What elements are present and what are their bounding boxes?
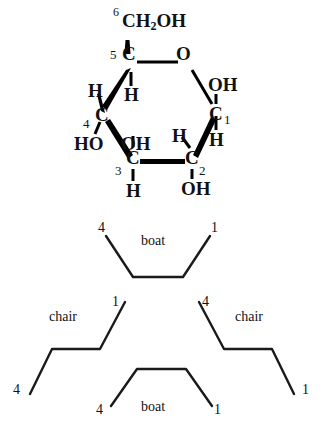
- boat-bottom-locant-left: 4: [96, 403, 103, 417]
- chair-right-label: chair: [235, 310, 263, 324]
- boat-top-locant-right: 1: [211, 221, 218, 235]
- atom-ring-oxygen: O: [176, 44, 191, 63]
- atom-c5: C: [122, 44, 136, 63]
- atom-c2: C: [185, 148, 199, 167]
- atom-oh-on-c1: OH: [208, 75, 238, 94]
- locant-4: 4: [83, 117, 90, 130]
- locant-5: 5: [110, 48, 117, 61]
- chair-right-locant-right: 1: [302, 383, 309, 397]
- chair-left-guide: [30, 327, 122, 394]
- locant-6: 6: [113, 6, 119, 18]
- boat-bottom-locant-right: 1: [214, 403, 221, 417]
- boat-top-label: boat: [141, 234, 165, 248]
- chair-left-skeleton: [30, 302, 125, 394]
- atom-h-on-c1: H: [209, 130, 224, 149]
- chair-left-locant-right: 1: [112, 295, 119, 309]
- locant-3: 3: [115, 164, 122, 177]
- atom-c4: C: [95, 105, 109, 124]
- bond-c3-c2: [140, 159, 185, 164]
- chair-left-locant-left: 4: [13, 383, 20, 397]
- atom-c1: C: [209, 104, 223, 123]
- chair-right-locant-left: 4: [202, 295, 209, 309]
- atom-ho-on-c4: HO: [74, 134, 104, 153]
- boat-bottom-label: boat: [141, 400, 165, 414]
- chemistry-figure: 6 CH2OH 5 C O H H 4 C HO OH C 3 H H C 2 …: [0, 0, 323, 429]
- chair-left-label: chair: [49, 310, 77, 324]
- locant-2: 2: [199, 164, 206, 177]
- atom-h-on-c4: H: [88, 81, 103, 100]
- locant-1: 1: [224, 113, 231, 126]
- atom-c3: C: [126, 148, 140, 167]
- atom-c6-ch2oh: CH2OH: [122, 11, 186, 32]
- atom-h-on-c5: H: [124, 85, 139, 104]
- atom-oh-on-c2: OH: [181, 179, 211, 198]
- boat-top-locant-left: 4: [98, 221, 105, 235]
- atom-h-on-c2: H: [172, 126, 187, 145]
- atom-h-on-c3: H: [126, 181, 141, 200]
